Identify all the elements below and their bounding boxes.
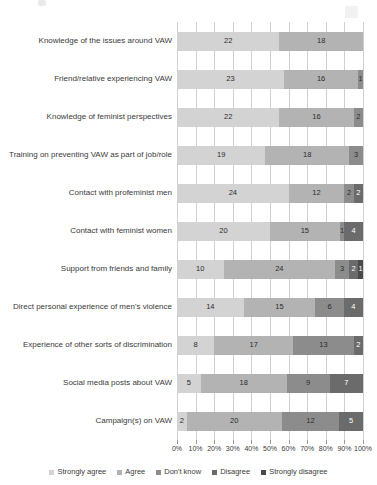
bar-segment: 10 bbox=[177, 260, 224, 279]
category-label: Experience of other sorts of discriminat… bbox=[0, 341, 172, 350]
bar-segment: 15 bbox=[270, 222, 340, 241]
bar-rows: 2218231612216219183241222201514102432114… bbox=[177, 22, 363, 440]
gridline-100 bbox=[363, 22, 364, 440]
axis-tick-mark bbox=[214, 440, 215, 444]
legend-label: Strongly disagree bbox=[269, 468, 327, 476]
legend-swatch-icon bbox=[261, 470, 266, 475]
legend-label: Disagree bbox=[220, 468, 250, 476]
axis-tick-mark bbox=[270, 440, 271, 444]
bar-segment: 2 bbox=[349, 260, 358, 279]
scan-artifact-top-right bbox=[345, 6, 358, 18]
axis-tick-label: 60% bbox=[282, 445, 296, 452]
axis-tick-label: 50% bbox=[263, 445, 277, 452]
bar-segment: 4 bbox=[344, 298, 363, 317]
axis-tick-label: 40% bbox=[244, 445, 258, 452]
bar-segment: 2 bbox=[354, 108, 363, 127]
axis-tick-mark bbox=[363, 440, 364, 444]
axis-tick-label: 10% bbox=[189, 445, 203, 452]
category-label: Contact with profeminist men bbox=[0, 189, 172, 198]
legend-swatch-icon bbox=[156, 470, 161, 475]
category-label: Knowledge of the issues around VAW bbox=[0, 37, 172, 46]
legend-item[interactable]: Don't know bbox=[156, 468, 201, 476]
bar-segment: 20 bbox=[177, 222, 270, 241]
legend-item[interactable]: Agree bbox=[117, 468, 145, 476]
axis-tick-label: 90% bbox=[337, 445, 351, 452]
bar-segment: 18 bbox=[201, 374, 287, 393]
bar-segment: 16 bbox=[279, 108, 353, 127]
legend-label: Agree bbox=[125, 468, 145, 476]
bar-row: 141564 bbox=[177, 298, 363, 317]
bar-segment: 23 bbox=[177, 70, 284, 89]
bar-segment: 2 bbox=[354, 336, 363, 355]
legend-item[interactable]: Strongly disagree bbox=[261, 468, 327, 476]
category-label: Knowledge of feminist perspectives bbox=[0, 113, 172, 122]
axis-tick-label: 30% bbox=[226, 445, 240, 452]
bar-row: 1024321 bbox=[177, 260, 363, 279]
bar-segment: 3 bbox=[349, 146, 363, 165]
axis-tick-mark bbox=[344, 440, 345, 444]
bar-segment: 7 bbox=[330, 374, 363, 393]
axis-tick-label: 80% bbox=[319, 445, 333, 452]
category-label: Friend/relative experiencing VAW bbox=[0, 75, 172, 84]
bar-row: 2218 bbox=[177, 32, 363, 51]
bar-segment: 2 bbox=[354, 184, 363, 203]
bar-segment: 5 bbox=[339, 412, 363, 431]
category-label: Direct personal experience of men's viol… bbox=[0, 303, 172, 312]
bar-segment: 18 bbox=[265, 146, 349, 165]
bar-segment: 2 bbox=[344, 184, 353, 203]
legend-swatch-icon bbox=[49, 470, 54, 475]
bar-row: 201514 bbox=[177, 222, 363, 241]
bar-segment: 24 bbox=[224, 260, 336, 279]
category-label: Training on preventing VAW as part of jo… bbox=[0, 151, 172, 160]
axis-tick-mark bbox=[177, 440, 178, 444]
bar-segment: 16 bbox=[284, 70, 358, 89]
bar-row: 51897 bbox=[177, 374, 363, 393]
bar-segment: 15 bbox=[244, 298, 316, 317]
axis-tick-mark bbox=[251, 440, 252, 444]
bar-segment: 22 bbox=[177, 108, 279, 127]
legend-item[interactable]: Disagree bbox=[212, 468, 250, 476]
bar-row: 817132 bbox=[177, 336, 363, 355]
category-label: Contact with feminist women bbox=[0, 227, 172, 236]
bar-segment: 6 bbox=[315, 298, 344, 317]
bar-row: 23161 bbox=[177, 70, 363, 89]
bar-segment: 2 bbox=[177, 412, 187, 431]
category-label: Campaign(s) on VAW bbox=[0, 417, 172, 426]
axis-tick-label: 70% bbox=[300, 445, 314, 452]
bar-segment: 14 bbox=[177, 298, 244, 317]
axis-tick-mark bbox=[289, 440, 290, 444]
bar-row: 220125 bbox=[177, 412, 363, 431]
bar-segment: 13 bbox=[293, 336, 353, 355]
scan-artifact-top-left bbox=[38, 0, 46, 6]
axis-tick-mark bbox=[233, 440, 234, 444]
plot-area: 2218231612216219183241222201514102432114… bbox=[177, 22, 363, 440]
bar-segment: 22 bbox=[177, 32, 279, 51]
axis-tick-label: 100% bbox=[354, 445, 372, 452]
axis-tick-mark bbox=[196, 440, 197, 444]
category-label: Support from friends and family bbox=[0, 265, 172, 274]
bar-segment: 5 bbox=[177, 374, 201, 393]
legend-item[interactable]: Strongly agree bbox=[49, 468, 106, 476]
bar-row: 22162 bbox=[177, 108, 363, 127]
bar-segment: 19 bbox=[177, 146, 265, 165]
legend-label: Strongly agree bbox=[57, 468, 106, 476]
bar-segment: 9 bbox=[287, 374, 330, 393]
bar-row: 241222 bbox=[177, 184, 363, 203]
category-axis-labels: Knowledge of the issues around VAWFriend… bbox=[0, 22, 172, 440]
legend-swatch-icon bbox=[117, 470, 122, 475]
bar-segment: 18 bbox=[279, 32, 363, 51]
axis-tick-mark bbox=[326, 440, 327, 444]
bar-segment: 4 bbox=[344, 222, 363, 241]
bar-segment: 20 bbox=[187, 412, 282, 431]
bar-segment: 12 bbox=[289, 184, 345, 203]
bar-segment: 24 bbox=[177, 184, 289, 203]
axis-tick-label: 0% bbox=[172, 445, 182, 452]
chart-legend: Strongly agreeAgreeDon't knowDisagreeStr… bbox=[0, 464, 377, 480]
bar-segment: 8 bbox=[177, 336, 214, 355]
bar-segment: 12 bbox=[282, 412, 339, 431]
bar-segment: 1 bbox=[358, 260, 363, 279]
bar-segment: 1 bbox=[358, 70, 363, 89]
bar-row: 19183 bbox=[177, 146, 363, 165]
axis-tick-mark bbox=[307, 440, 308, 444]
value-axis: 0%10%20%30%40%50%60%70%80%90%100% bbox=[177, 440, 363, 456]
